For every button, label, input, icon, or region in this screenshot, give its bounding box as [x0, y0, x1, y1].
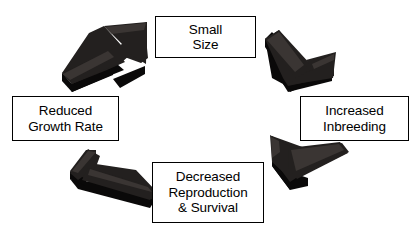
node-reduced-growth-rate: Reduced Growth Rate	[12, 96, 119, 141]
node-small-size-label: Small Size	[189, 22, 222, 53]
node-increased-inbreeding-label: Increased Inbreeding	[323, 103, 386, 134]
node-reduced-growth-rate-label: Reduced Growth Rate	[28, 103, 103, 134]
arrow-inbreeding-to-reproduction-icon	[270, 135, 349, 190]
arrow-small-to-inbreeding-icon	[265, 30, 336, 92]
node-small-size: Small Size	[155, 16, 256, 58]
arrow-reproduction-to-growth-icon	[70, 149, 155, 208]
node-increased-inbreeding: Increased Inbreeding	[300, 96, 409, 141]
node-decreased-reproduction-label: Decreased Reproduction & Survival	[168, 169, 247, 216]
cycle-diagram: Small Size Increased Inbreeding Decrease…	[0, 0, 419, 235]
node-decreased-reproduction: Decreased Reproduction & Survival	[152, 162, 264, 223]
arrow-growth-to-small-icon	[62, 22, 148, 92]
